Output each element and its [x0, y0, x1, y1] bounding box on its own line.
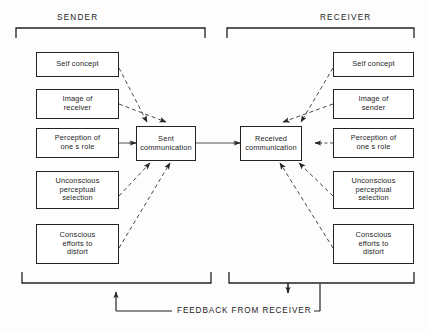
receiver-box-unconscious-perceptual-selection[interactable]: Unconscious perceptual selection: [333, 171, 414, 209]
receiver-box-perception-of-role[interactable]: Perception of one s role: [333, 128, 414, 158]
receiver-box-image-of-sender[interactable]: Image of sender: [333, 89, 414, 119]
receiver-box-image-of-sender-label: Image of sender: [359, 95, 389, 112]
sender-box-unconscious-perceptual-selection[interactable]: Unconscious perceptual selection: [36, 171, 119, 209]
feedback-label: FEEDBACK FROM RECEIVER: [174, 306, 314, 315]
receiver-box-perception-of-role-label: Perception of one s role: [351, 134, 397, 151]
sender-box-perception-of-role[interactable]: Perception of one s role: [36, 128, 119, 158]
communication-model-diagram: SENDER RECEIVER Self concept Image of re…: [0, 0, 430, 333]
sender-box-image-of-receiver-label: Image of receiver: [63, 95, 93, 112]
sender-box-image-of-receiver[interactable]: Image of receiver: [36, 89, 119, 119]
sender-group-title: SENDER: [57, 13, 98, 22]
sender-box-perception-of-role-label: Perception of one s role: [55, 134, 101, 151]
receiver-box-self-concept[interactable]: Self concept: [333, 52, 414, 77]
receiver-group-bracket: [227, 28, 414, 38]
hub-box-received-communication-label: Received communication: [245, 135, 297, 152]
sender-bottom-bracket: [22, 272, 211, 283]
sender-box-conscious-efforts-to-distort[interactable]: Conscious efforts to distort: [36, 224, 119, 264]
sender-box-self-concept[interactable]: Self concept: [36, 52, 119, 77]
sender-group-bracket: [16, 28, 205, 38]
hub-box-received-communication[interactable]: Received communication: [240, 126, 302, 161]
hub-box-sent-communication[interactable]: Sent communication: [136, 126, 196, 161]
receiver-box-conscious-efforts-to-distort-label: Conscious efforts to distort: [356, 231, 392, 257]
hub-box-sent-communication-label: Sent communication: [140, 135, 192, 152]
receiver-box-self-concept-label: Self concept: [352, 60, 394, 69]
sender-box-self-concept-label: Self concept: [56, 60, 98, 69]
receiver-box-unconscious-perceptual-selection-label: Unconscious perceptual selection: [352, 177, 396, 203]
receiver-bottom-bracket: [229, 272, 414, 283]
receiver-box-conscious-efforts-to-distort[interactable]: Conscious efforts to distort: [333, 224, 414, 264]
sender-box-unconscious-perceptual-selection-label: Unconscious perceptual selection: [56, 177, 100, 203]
diagram-connector-layer: [0, 0, 430, 333]
sender-box-conscious-efforts-to-distort-label: Conscious efforts to distort: [60, 231, 96, 257]
receiver-group-title: RECEIVER: [320, 13, 371, 22]
